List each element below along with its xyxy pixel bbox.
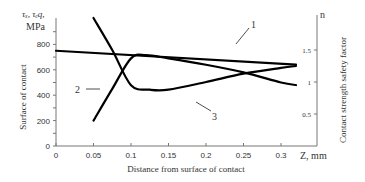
x-tick-label: 0.25 [236, 151, 252, 160]
series-2-line [94, 55, 297, 121]
x-tick-label: 0.05 [86, 151, 102, 160]
y-right-top-label: n [320, 9, 325, 20]
x-tick-label: 0.15 [161, 151, 177, 160]
y-right-tick-label: 1 [308, 79, 312, 87]
y-left-tick-label: 800 [37, 40, 51, 49]
y-left-tick-label: 400 [37, 91, 51, 100]
labels: τₓ, τₑq, MPa Surface of contact n Contac… [18, 9, 348, 174]
x-tick-label: 0.1 [125, 151, 137, 160]
y-left-axis-title: Surface of contact [18, 64, 28, 130]
y-right-axis-title: Contact strength safety factor [338, 37, 348, 143]
y-left-unit-label: MPa [26, 21, 45, 32]
x-tick-label: 0.3 [275, 151, 287, 160]
leader-line-1 [236, 28, 249, 44]
annotation-2: 2 [75, 84, 80, 95]
curves [56, 18, 296, 121]
x-axis-title: Distance from surface of contact [127, 164, 245, 174]
x-tick-label: 0 [54, 151, 59, 160]
annotation-1: 1 [251, 19, 256, 30]
y-right-tick-label: 1.5 [302, 47, 311, 55]
y-left-tick-label: 600 [37, 66, 51, 75]
y-left-top-label: τₓ, τₑq, [22, 9, 45, 19]
y-left-tick-label: 0 [46, 142, 51, 151]
x-unit-label: Z, mm [300, 150, 327, 161]
x-tick-label: 0.2 [200, 151, 212, 160]
leader-line-3 [196, 102, 211, 111]
y-left-tick-label: 200 [37, 117, 51, 126]
chart: 020040060080000.050.10.150.20.250.30.511… [0, 0, 365, 182]
y-right-tick-label: 0.5 [302, 111, 311, 119]
annotation-3: 3 [212, 111, 217, 122]
series-1-line [56, 51, 296, 65]
